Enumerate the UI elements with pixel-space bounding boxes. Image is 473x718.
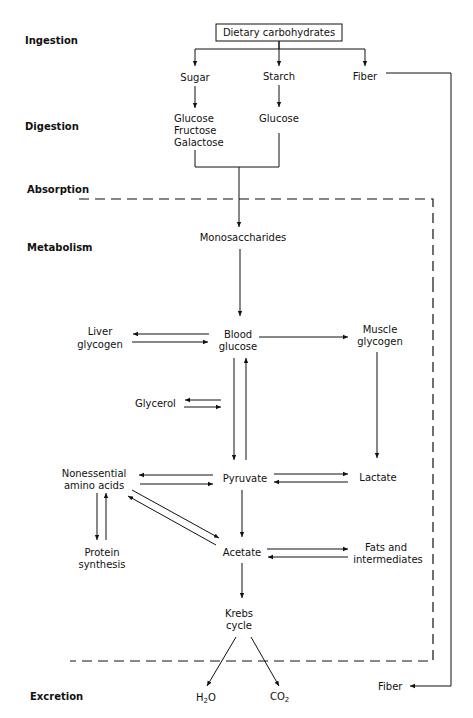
node-fats-intermediates-1: Fats and: [365, 542, 407, 553]
node-fats-intermediates-2: intermediates: [353, 554, 423, 565]
node-glucose-starch: Glucose: [259, 113, 299, 124]
node-acetate: Acetate: [223, 547, 261, 558]
node-galactose: Galactose: [174, 137, 224, 148]
node-protein-synthesis-2: synthesis: [78, 559, 125, 570]
carbohydrate-metabolism-diagram: Ingestion Digestion Absorption Metabolis…: [0, 0, 473, 718]
node-liver-glycogen-2: glycogen: [77, 339, 123, 350]
node-fructose: Fructose: [174, 125, 216, 136]
node-muscle-glycogen-1: Muscle: [363, 324, 398, 335]
node-krebs-cycle-2: cycle: [226, 620, 252, 631]
node-co2: CO2: [270, 691, 289, 704]
node-starch: Starch: [263, 71, 295, 82]
node-glycerol: Glycerol: [135, 398, 176, 409]
node-monosaccharides: Monosaccharides: [200, 232, 287, 243]
stage-absorption: Absorption: [27, 184, 89, 195]
node-blood-glucose-2: glucose: [219, 341, 257, 352]
node-h2o: H2O: [196, 692, 216, 705]
node-liver-glycogen-1: Liver: [88, 326, 113, 337]
node-fiber-bottom: Fiber: [378, 681, 403, 692]
node-dietary-carbohydrates: Dietary carbohydrates: [223, 27, 335, 38]
node-nonessential-amino-acids-2: amino acids: [64, 480, 124, 491]
stage-ingestion: Ingestion: [25, 35, 78, 46]
node-krebs-cycle-1: Krebs: [225, 608, 253, 619]
stage-excretion: Excretion: [30, 691, 83, 702]
node-fiber-top: Fiber: [353, 71, 378, 82]
node-nonessential-amino-acids-1: Nonessential: [62, 468, 127, 479]
node-protein-synthesis-1: Protein: [84, 547, 119, 558]
stage-metabolism: Metabolism: [27, 242, 93, 253]
node-glucose-sugar: Glucose: [174, 113, 214, 124]
node-blood-glucose-1: Blood: [224, 329, 252, 340]
node-sugar: Sugar: [180, 72, 210, 83]
node-lactate: Lactate: [359, 472, 396, 483]
node-muscle-glycogen-2: glycogen: [357, 336, 403, 347]
stage-digestion: Digestion: [25, 121, 79, 132]
node-pyruvate: Pyruvate: [223, 473, 268, 484]
